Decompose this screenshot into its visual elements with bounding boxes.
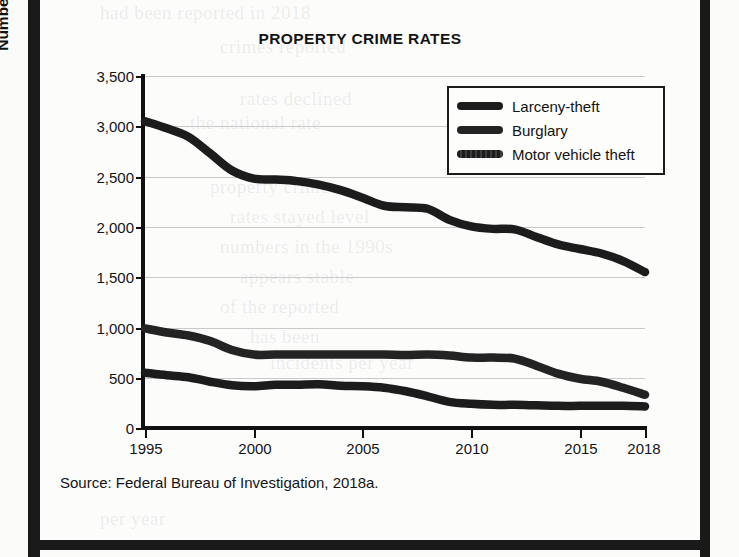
legend-label: Larceny-theft bbox=[512, 98, 600, 115]
legend-item-burglary: Burglary bbox=[457, 118, 655, 142]
legend-swatch-icon bbox=[457, 150, 503, 158]
source-note: Source: Federal Bureau of Investigation,… bbox=[60, 474, 379, 491]
chart-legend: Larceny-theft Burglary Motor vehicle the… bbox=[447, 86, 665, 175]
legend-item-larceny-theft: Larceny-theft bbox=[457, 94, 655, 118]
legend-swatch-icon bbox=[457, 102, 503, 110]
legend-item-motor-vehicle-theft: Motor vehicle theft bbox=[457, 142, 655, 166]
legend-label: Motor vehicle theft bbox=[512, 146, 635, 163]
data-series-layer bbox=[40, 0, 700, 540]
page-border-bottom bbox=[28, 540, 710, 550]
page-border-right bbox=[700, 0, 710, 557]
chart-figure: PROPERTY CRIME RATES 3,500 3,000 2,500 2… bbox=[40, 0, 700, 540]
page-content-area: had been reported in 2018 crimes reporte… bbox=[40, 0, 700, 540]
legend-swatch-icon bbox=[457, 126, 503, 134]
page-border-left bbox=[28, 0, 40, 557]
legend-label: Burglary bbox=[512, 122, 568, 139]
scanned-page: had been reported in 2018 crimes reporte… bbox=[0, 0, 739, 557]
y-axis-title: Number per 100,000 people bbox=[0, 0, 12, 100]
